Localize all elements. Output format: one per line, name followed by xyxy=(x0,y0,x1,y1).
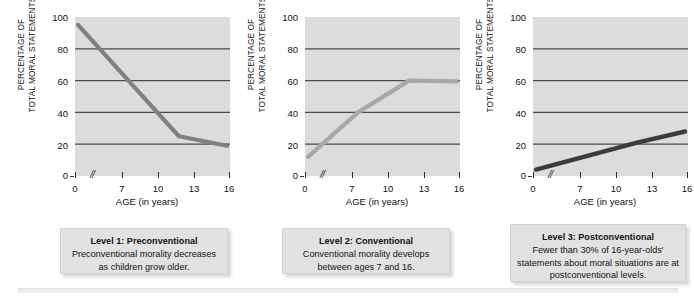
x-tick-13: 13 xyxy=(183,183,205,194)
y-axis-label-line2: TOTAL MORAL STATEMENTS xyxy=(485,0,496,130)
x-tick-mark-13 xyxy=(424,172,425,178)
x-tick-mark-16 xyxy=(687,172,688,178)
y-axis-label-line1: PERCENTAGE OF xyxy=(247,0,258,130)
y-axis-label-line2: TOTAL MORAL STATEMENTS xyxy=(27,0,38,130)
x-tick-7: 7 xyxy=(569,183,591,194)
y-tick-40: 40 xyxy=(42,108,68,119)
bottom-divider xyxy=(18,288,678,293)
x-axis-label: AGE (in years) xyxy=(62,196,232,207)
y-tick-60: 60 xyxy=(272,76,298,87)
y-tick-40: 40 xyxy=(500,108,526,119)
x-tick-mark-13 xyxy=(652,172,653,178)
y-tick-80: 80 xyxy=(42,44,68,55)
caption-box-level-1: Level 1: Preconventional Preconventional… xyxy=(60,228,228,274)
chart-level-3: PERCENTAGE OF TOTAL MORAL STATEMENTS 100… xyxy=(460,0,691,212)
plot-area-level-3 xyxy=(533,17,688,176)
caption-body-level-2: Conventional morality develops between a… xyxy=(288,248,444,273)
caption-title-level-3: Level 3: Postconventional xyxy=(516,231,680,243)
plot-area-level-2 xyxy=(305,17,460,176)
y-tick-80: 80 xyxy=(272,44,298,55)
y-tick-0: 0 xyxy=(272,170,298,181)
y-axis-label: PERCENTAGE OF TOTAL MORAL STATEMENTS xyxy=(475,0,496,130)
x-tick-10: 10 xyxy=(377,183,399,194)
x-tick-7: 7 xyxy=(341,183,363,194)
y-tick-40: 40 xyxy=(272,108,298,119)
caption-title-level-1: Level 1: Preconventional xyxy=(66,235,222,247)
x-axis-break-icon: // xyxy=(320,168,324,180)
plot-svg-level-3 xyxy=(533,17,688,176)
data-line-postconventional xyxy=(536,132,685,170)
caption-body-level-1: Preconventional morality decreases as ch… xyxy=(66,248,222,273)
x-tick-mark-0 xyxy=(533,172,534,178)
caption-box-level-2: Level 2: Conventional Conventional moral… xyxy=(282,228,450,274)
x-tick-mark-7 xyxy=(352,172,353,178)
figure-kohlberg-moral-development: PERCENTAGE OF TOTAL MORAL STATEMENTS 100… xyxy=(0,0,694,302)
y-tick-100: 100 xyxy=(272,12,298,23)
y-tick-20: 20 xyxy=(42,140,68,151)
y-tick-60: 60 xyxy=(42,76,68,87)
data-line-preconventional xyxy=(78,25,227,146)
y-tick-80: 80 xyxy=(500,44,526,55)
x-tick-mark-0 xyxy=(75,172,76,178)
x-tick-mark-13 xyxy=(194,172,195,178)
x-tick-mark-7 xyxy=(580,172,581,178)
y-axis-label-line1: PERCENTAGE OF xyxy=(475,0,486,130)
y-axis-label-line2: TOTAL MORAL STATEMENTS xyxy=(257,0,268,130)
x-tick-13: 13 xyxy=(641,183,663,194)
caption-body-level-3: Fewer than 30% of 16-year-olds' statemen… xyxy=(516,244,680,281)
chart-level-2: PERCENTAGE OF TOTAL MORAL STATEMENTS 100… xyxy=(232,0,463,212)
x-tick-16: 16 xyxy=(676,183,694,194)
y-axis-label-line1: PERCENTAGE OF xyxy=(17,0,28,130)
plot-svg-level-2 xyxy=(305,17,460,176)
x-tick-mark-10 xyxy=(388,172,389,178)
chart-level-1: PERCENTAGE OF TOTAL MORAL STATEMENTS 100… xyxy=(2,0,233,212)
chart-panel-level-3: PERCENTAGE OF TOTAL MORAL STATEMENTS 100… xyxy=(460,0,691,302)
plot-area-level-1 xyxy=(75,17,230,176)
x-tick-0: 0 xyxy=(294,183,316,194)
x-tick-0: 0 xyxy=(522,183,544,194)
chart-panel-level-2: PERCENTAGE OF TOTAL MORAL STATEMENTS 100… xyxy=(232,0,463,302)
x-axis-break-icon: // xyxy=(90,168,94,180)
chart-panel-level-1: PERCENTAGE OF TOTAL MORAL STATEMENTS 100… xyxy=(2,0,233,302)
y-tick-20: 20 xyxy=(272,140,298,151)
x-tick-10: 10 xyxy=(147,183,169,194)
data-line-conventional xyxy=(308,81,457,157)
x-tick-mark-16 xyxy=(229,172,230,178)
x-tick-13: 13 xyxy=(413,183,435,194)
x-tick-mark-0 xyxy=(305,172,306,178)
y-axis-label: PERCENTAGE OF TOTAL MORAL STATEMENTS xyxy=(247,0,268,130)
x-tick-mark-10 xyxy=(158,172,159,178)
caption-box-level-3: Level 3: Postconventional Fewer than 30%… xyxy=(510,224,686,282)
x-axis-break-icon: // xyxy=(548,168,552,180)
x-tick-mark-10 xyxy=(616,172,617,178)
x-tick-7: 7 xyxy=(111,183,133,194)
y-tick-0: 0 xyxy=(42,170,68,181)
caption-title-level-2: Level 2: Conventional xyxy=(288,235,444,247)
x-tick-0: 0 xyxy=(64,183,86,194)
y-axis-label: PERCENTAGE OF TOTAL MORAL STATEMENTS xyxy=(17,0,38,130)
x-tick-10: 10 xyxy=(605,183,627,194)
plot-svg-level-1 xyxy=(75,17,230,176)
y-tick-100: 100 xyxy=(500,12,526,23)
y-tick-100: 100 xyxy=(42,12,68,23)
y-tick-60: 60 xyxy=(500,76,526,87)
y-tick-20: 20 xyxy=(500,140,526,151)
y-tick-0: 0 xyxy=(500,170,526,181)
x-axis-label: AGE (in years) xyxy=(520,196,690,207)
x-axis-label: AGE (in years) xyxy=(292,196,462,207)
x-tick-mark-7 xyxy=(122,172,123,178)
